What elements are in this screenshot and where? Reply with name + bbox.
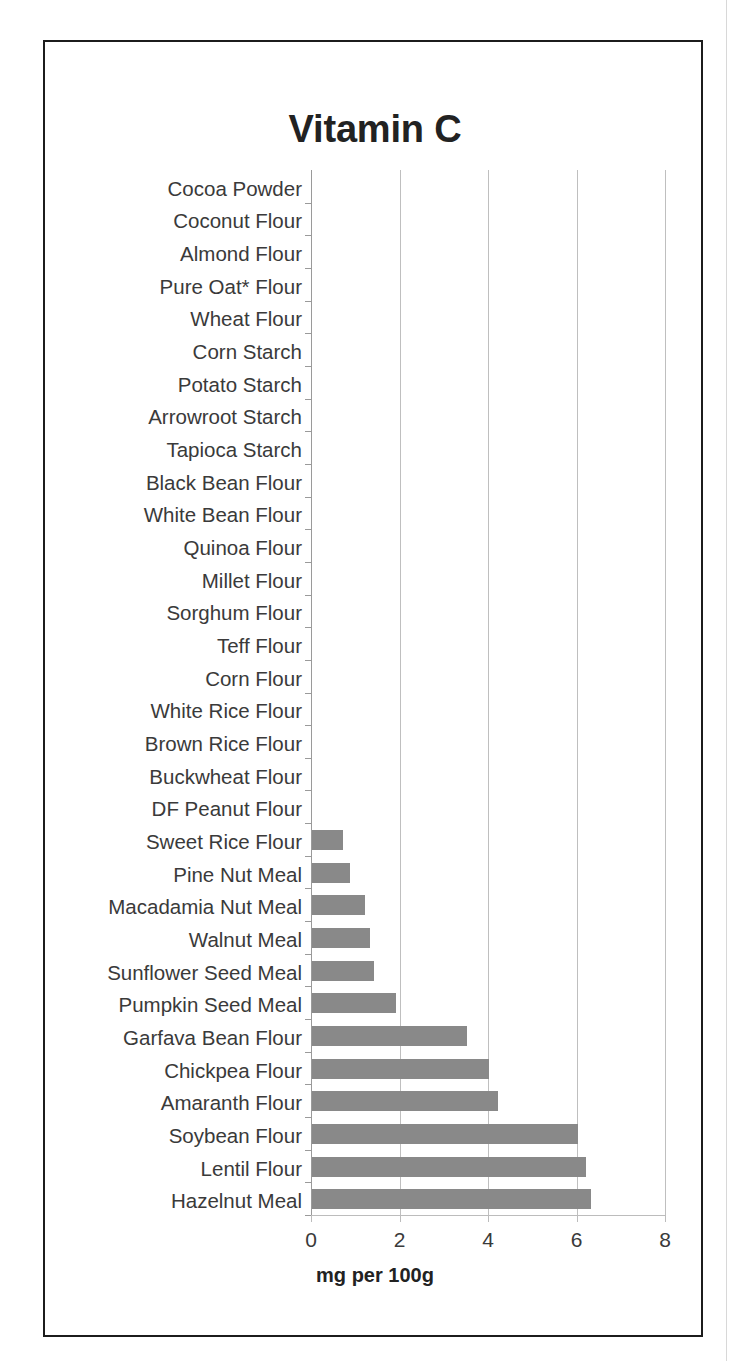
category-label: Corn Flour [42,669,302,690]
bar-row: Sweet Rice Flour [311,823,665,858]
category-label: Cocoa Powder [42,179,302,200]
category-label: Buckwheat Flour [42,767,302,788]
bar-row: Garfava Bean Flour [311,1019,665,1054]
bar [312,928,370,948]
bar-row: DF Peanut Flour [311,790,665,825]
category-label: Quinoa Flour [42,538,302,559]
bar-row: Chickpea Flour [311,1052,665,1087]
x-axis-tick-mark [488,1215,489,1222]
bar [312,1026,467,1046]
bar [312,863,350,883]
bar-row: Tapioca Starch [311,431,665,466]
bar-row: Quinoa Flour [311,529,665,564]
bar [312,830,343,850]
category-label: Hazelnut Meal [42,1191,302,1212]
bar-row: Teff Flour [311,627,665,662]
category-label: Walnut Meal [42,930,302,951]
category-label: Chickpea Flour [42,1061,302,1082]
bar-row: Millet Flour [311,562,665,597]
category-label: Potato Starch [42,375,302,396]
plot-area: Cocoa PowderCoconut FlourAlmond FlourPur… [311,170,665,1215]
bar-row: Coconut Flour [311,203,665,238]
bar-row: Pine Nut Meal [311,856,665,891]
bar-row: Sunflower Seed Meal [311,954,665,989]
bar-row: White Rice Flour [311,693,665,728]
category-label: White Bean Flour [42,505,302,526]
bar [312,1059,489,1079]
bar-row: Corn Flour [311,660,665,695]
bar [312,961,374,981]
bar-row: Pure Oat* Flour [311,268,665,303]
category-label: Millet Flour [42,571,302,592]
bar-row: Potato Starch [311,366,665,401]
category-label: Soybean Flour [42,1126,302,1147]
bar-row: White Bean Flour [311,497,665,532]
category-label: Arrowroot Starch [42,407,302,428]
category-label: Teff Flour [42,636,302,657]
category-label: Brown Rice Flour [42,734,302,755]
category-label: Garfava Bean Flour [42,1028,302,1049]
x-axis-tick-label: 0 [305,1229,317,1250]
bar-row: Macadamia Nut Meal [311,888,665,923]
category-label: Wheat Flour [42,309,302,330]
page-edge-line [726,0,727,1361]
x-axis-title: mg per 100g [45,1264,705,1287]
category-label: DF Peanut Flour [42,799,302,820]
x-axis-tick-label: 8 [659,1229,671,1250]
x-axis-tick-mark [311,1215,312,1222]
x-axis-tick-mark [400,1215,401,1222]
category-label: Black Bean Flour [42,473,302,494]
x-axis-tick-label: 2 [394,1229,406,1250]
bar-row: Buckwheat Flour [311,758,665,793]
bar [312,1189,591,1209]
bar-row: Pumpkin Seed Meal [311,986,665,1021]
bar-row: Sorghum Flour [311,595,665,630]
bar-row: Brown Rice Flour [311,725,665,760]
bar-row: Wheat Flour [311,301,665,336]
category-label: Macadamia Nut Meal [42,897,302,918]
x-axis-tick-mark [665,1215,666,1222]
category-label: Pure Oat* Flour [42,277,302,298]
chart-frame: Vitamin C Cocoa PowderCoconut FlourAlmon… [43,40,703,1337]
category-label: Sunflower Seed Meal [42,963,302,984]
category-label: Pine Nut Meal [42,865,302,886]
bar-row: Walnut Meal [311,921,665,956]
x-axis-tick-label: 6 [571,1229,583,1250]
x-axis-tick-mark [577,1215,578,1222]
bar [312,1124,578,1144]
category-label: Coconut Flour [42,211,302,232]
x-axis-tick-label: 4 [482,1229,494,1250]
gridline [665,170,666,1215]
category-label: White Rice Flour [42,701,302,722]
chart-title: Vitamin C [45,108,705,151]
bar [312,1157,586,1177]
category-label: Tapioca Starch [42,440,302,461]
bar-row: Lentil Flour [311,1150,665,1185]
bar [312,1091,498,1111]
bar-row: Almond Flour [311,235,665,270]
category-label: Sweet Rice Flour [42,832,302,853]
category-label: Amaranth Flour [42,1093,302,1114]
bar-row: Black Bean Flour [311,464,665,499]
bar-row: Cocoa Powder [311,170,665,205]
category-label: Pumpkin Seed Meal [42,995,302,1016]
bar [312,993,396,1013]
category-label: Lentil Flour [42,1159,302,1180]
bar-row: Arrowroot Starch [311,399,665,434]
bar-row: Soybean Flour [311,1117,665,1152]
bar [312,895,365,915]
category-label: Almond Flour [42,244,302,265]
category-label: Corn Starch [42,342,302,363]
bar-row: Amaranth Flour [311,1084,665,1119]
category-label: Sorghum Flour [42,603,302,624]
bar-row: Hazelnut Meal [311,1182,665,1217]
bar-row: Corn Starch [311,333,665,368]
chart-page: Vitamin C Cocoa PowderCoconut FlourAlmon… [0,0,731,1361]
